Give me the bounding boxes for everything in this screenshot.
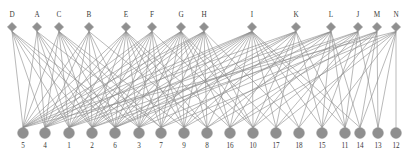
top-node-label-K: K xyxy=(293,11,299,19)
top-node-J[interactable] xyxy=(353,22,362,31)
top-node-M[interactable] xyxy=(372,22,381,31)
bottom-node-label-11: 11 xyxy=(342,142,349,150)
graph-edge xyxy=(115,32,358,128)
top-node-K[interactable] xyxy=(291,22,300,31)
bottom-node-11[interactable] xyxy=(340,128,351,139)
bipartite-graph-canvas: DACBEFGHIKLJMN 5412637981610171815111413… xyxy=(0,0,407,156)
graph-edge xyxy=(360,32,377,128)
top-node-I[interactable] xyxy=(247,22,256,31)
top-node-labels-group: DACBEFGHIKLJMN xyxy=(9,11,399,19)
bottom-node-17[interactable] xyxy=(271,128,282,139)
bottom-node-14[interactable] xyxy=(355,128,366,139)
graph-edge xyxy=(253,32,296,128)
bottom-node-label-9: 9 xyxy=(182,142,186,150)
bottom-node-label-3: 3 xyxy=(137,142,141,150)
bipartite-graph-container: DACBEFGHIKLJMN 5412637981610171815111413… xyxy=(0,0,407,156)
bottom-node-12[interactable] xyxy=(391,128,402,139)
top-node-label-N: N xyxy=(393,11,399,19)
top-node-H[interactable] xyxy=(199,22,208,31)
bottom-node-5[interactable] xyxy=(18,128,29,139)
top-node-label-A: A xyxy=(34,11,40,19)
bottom-node-label-4: 4 xyxy=(43,142,47,150)
graph-edge xyxy=(296,32,322,128)
bottom-node-9[interactable] xyxy=(179,128,190,139)
bottom-node-10[interactable] xyxy=(248,128,259,139)
bottom-node-18[interactable] xyxy=(294,128,305,139)
bottom-node-label-17: 17 xyxy=(272,142,280,150)
bottom-node-8[interactable] xyxy=(202,128,213,139)
bottom-node-label-2: 2 xyxy=(90,142,94,150)
top-node-label-D: D xyxy=(9,11,14,19)
top-node-label-H: H xyxy=(201,11,206,19)
top-node-L[interactable] xyxy=(326,22,335,31)
bottom-node-3[interactable] xyxy=(134,128,145,139)
top-node-label-G: G xyxy=(178,11,183,19)
top-node-D[interactable] xyxy=(7,22,16,31)
bottom-node-label-14: 14 xyxy=(356,142,364,150)
bottom-node-6[interactable] xyxy=(110,128,121,139)
top-node-label-B: B xyxy=(87,11,92,19)
bottom-node-label-18: 18 xyxy=(295,142,303,150)
bottom-node-7[interactable] xyxy=(156,128,167,139)
graph-edge xyxy=(378,32,396,128)
bottom-node-label-8: 8 xyxy=(205,142,209,150)
graph-edge xyxy=(92,32,252,128)
bottom-node-15[interactable] xyxy=(317,128,328,139)
bottom-node-label-13: 13 xyxy=(374,142,382,150)
bottom-node-label-16: 16 xyxy=(226,142,234,150)
top-node-C[interactable] xyxy=(54,22,63,31)
edges-group xyxy=(12,32,396,128)
bottom-node-label-12: 12 xyxy=(392,142,400,150)
bottom-node-4[interactable] xyxy=(40,128,51,139)
graph-edge xyxy=(12,32,23,128)
top-node-B[interactable] xyxy=(84,22,93,31)
bottom-node-13[interactable] xyxy=(373,128,384,139)
bottom-node-label-7: 7 xyxy=(159,142,163,150)
graph-edge xyxy=(252,32,253,128)
top-node-label-C: C xyxy=(57,11,62,19)
top-node-A[interactable] xyxy=(32,22,41,31)
bottom-node-1[interactable] xyxy=(64,128,75,139)
bottom-node-2[interactable] xyxy=(87,128,98,139)
bottom-node-label-6: 6 xyxy=(113,142,117,150)
bottom-node-label-15: 15 xyxy=(318,142,326,150)
top-node-label-I: I xyxy=(251,11,254,19)
top-node-E[interactable] xyxy=(121,22,130,31)
bottom-node-labels-group: 541263798161017181511141312 xyxy=(21,142,400,150)
bottom-nodes-group xyxy=(18,128,402,139)
bottom-node-label-10: 10 xyxy=(249,142,257,150)
top-node-label-L: L xyxy=(329,11,333,19)
top-node-label-E: E xyxy=(124,11,129,19)
bottom-node-16[interactable] xyxy=(225,128,236,139)
top-node-label-J: J xyxy=(357,11,360,19)
top-node-label-F: F xyxy=(150,11,154,19)
top-node-label-M: M xyxy=(374,11,381,19)
graph-edge xyxy=(23,32,181,128)
top-node-G[interactable] xyxy=(176,22,185,31)
top-node-F[interactable] xyxy=(147,22,156,31)
graph-edge xyxy=(23,32,37,128)
top-nodes-group xyxy=(7,22,400,31)
top-node-N[interactable] xyxy=(391,22,400,31)
graph-edge xyxy=(92,32,152,128)
bottom-node-label-1: 1 xyxy=(67,142,71,150)
bottom-node-label-5: 5 xyxy=(21,142,25,150)
